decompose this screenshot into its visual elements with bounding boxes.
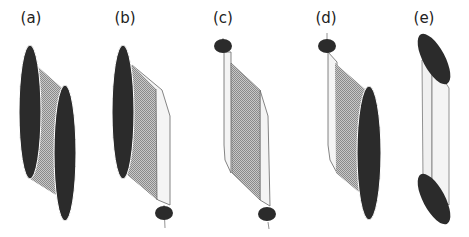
panel-c [214,38,276,229]
panel-label-a: (a) [16,9,46,27]
small-ellipse-top [214,39,232,53]
hatched-parallelogram [231,63,260,200]
diagram-canvas [0,0,469,237]
small-ellipse-bottom [258,207,276,221]
small-ellipse-top [318,39,336,53]
light-strip-left [224,52,231,173]
panel-a [19,45,76,221]
panel-e [411,29,457,229]
panel-d [318,33,381,220]
large-ellipse-right [357,86,381,220]
light-strip-right [260,90,270,206]
light-strip-left [422,60,432,190]
panel-label-e: (e) [409,9,439,27]
panel-label-d: (d) [311,9,341,27]
large-ellipse-left [112,45,134,179]
large-ellipse-right [54,85,76,221]
panel-b [112,45,173,228]
small-ellipse-bottom [155,206,173,220]
large-ellipse-left [19,45,41,179]
panel-label-c: (c) [208,9,238,27]
panel-label-b: (b) [110,9,140,27]
